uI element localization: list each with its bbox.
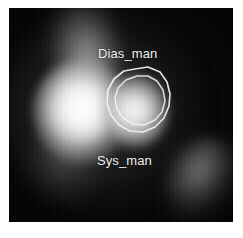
roi-label-sys-man: Sys_man bbox=[97, 153, 152, 168]
vignette-overlay bbox=[9, 8, 233, 222]
roi-label-dias-man: Dias_man bbox=[98, 46, 157, 61]
ambient-haze bbox=[9, 8, 209, 217]
roi-contour-layer bbox=[9, 8, 233, 222]
lower-right-lobe-blob bbox=[150, 125, 233, 222]
roi-contour-svg bbox=[9, 8, 233, 222]
roi-contour-dias-man[interactable] bbox=[107, 67, 170, 132]
scanline-noise-overlay bbox=[9, 8, 233, 222]
scan-image-panel[interactable]: Dias_man Sys_man bbox=[9, 8, 233, 222]
center-lobe-blob bbox=[103, 74, 169, 148]
scan-viewer: Dias_man Sys_man bbox=[0, 0, 243, 238]
left-lobe-blob bbox=[33, 60, 131, 164]
lower-left-tail-blob bbox=[23, 128, 103, 204]
roi-contour-sys-man[interactable] bbox=[115, 76, 165, 125]
left-lobe-core-blob bbox=[51, 78, 113, 142]
